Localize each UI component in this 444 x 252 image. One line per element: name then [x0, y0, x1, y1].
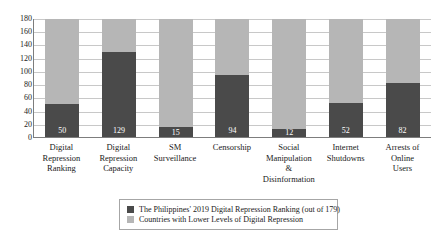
y-tick-label: 20: [24, 121, 32, 129]
bar-segment-philippines-ranking: 82: [386, 83, 420, 137]
bar-column[interactable]: 12: [272, 19, 306, 137]
x-category-label-line: Repression: [91, 153, 145, 164]
x-category-label-line: Ranking: [34, 163, 88, 174]
x-axis-category-labels: DigitalRepressionRankingDigitalRepressio…: [33, 142, 431, 184]
x-category-label-line: Capacity: [91, 163, 145, 174]
bar-column[interactable]: 129: [102, 19, 136, 137]
bar-column[interactable]: 50: [45, 19, 79, 137]
bar-column[interactable]: 82: [386, 19, 420, 137]
bar-segment-philippines-ranking: 129: [102, 52, 136, 137]
bar-value-label: 94: [215, 126, 249, 135]
bar-column[interactable]: 52: [329, 19, 363, 137]
bar-segment-philippines-ranking: 94: [215, 75, 249, 137]
y-tick-label: 80: [24, 81, 32, 89]
x-category-label: DigitalRepressionCapacity: [91, 142, 145, 174]
x-category-label: Censorship: [205, 142, 259, 153]
x-category-label-line: SM: [148, 142, 202, 153]
bar-column[interactable]: 15: [159, 19, 193, 137]
x-category-label: Arrests ofOnlineUsers: [375, 142, 429, 174]
y-tick-label: 120: [20, 55, 32, 63]
bar-segment-philippines-ranking: 15: [159, 127, 193, 137]
x-category-label-line: Arrests of: [375, 142, 429, 153]
bar-segment-lower-repression: [386, 19, 420, 83]
y-axis: 180160140120100806040200: [6, 14, 32, 138]
bar-segment-lower-repression: [102, 19, 136, 52]
legend-item[interactable]: The Philippines' 2019 Digital Repression…: [127, 205, 331, 214]
light-swatch: [127, 216, 134, 223]
x-category-label: SMSurveillance: [148, 142, 202, 163]
y-tick-label: 180: [20, 15, 32, 23]
x-category-label: SocialManipulation&Disinformation: [262, 142, 316, 184]
x-category-label-line: Manipulation: [262, 153, 316, 164]
x-category-label-line: Internet: [319, 142, 373, 153]
x-category-label-line: Digital: [91, 142, 145, 153]
x-category-label-line: Surveillance: [148, 153, 202, 164]
x-category-label-line: Social: [262, 142, 316, 153]
chart-legend: The Philippines' 2019 Digital Repression…: [119, 199, 338, 230]
y-tick-label: 40: [24, 108, 32, 116]
x-category-label-line: &: [262, 163, 316, 174]
bar-segment-philippines-ranking: 52: [329, 103, 363, 137]
dark-swatch: [127, 206, 134, 213]
bar-value-label: 50: [45, 126, 79, 135]
x-category-label: InternetShutdowns: [319, 142, 373, 163]
y-tick-label: 160: [20, 28, 32, 36]
bar-value-label: 82: [386, 126, 420, 135]
y-tick-label: 100: [20, 68, 32, 76]
x-category-label: DigitalRepressionRanking: [34, 142, 88, 174]
legend-item[interactable]: Countries with Lower Levels of Digital R…: [127, 215, 331, 224]
bar-value-label: 12: [272, 128, 306, 137]
x-category-label-line: Disinformation: [262, 174, 316, 185]
y-tick-label: 60: [24, 94, 32, 102]
bar-segment-lower-repression: [45, 19, 79, 104]
x-category-label-line: Online: [375, 153, 429, 164]
bar-value-label: 52: [329, 126, 363, 135]
bar-segment-lower-repression: [159, 19, 193, 127]
x-category-label-line: Repression: [34, 153, 88, 164]
bars-layer: 501291594125282: [34, 19, 431, 137]
legend-item-label: Countries with Lower Levels of Digital R…: [139, 215, 303, 224]
bar-value-label: 129: [102, 126, 136, 135]
stacked-bar-chart: 180160140120100806040200 501291594125282…: [0, 0, 444, 252]
bar-segment-lower-repression: [215, 19, 249, 75]
x-category-label-line: Censorship: [205, 142, 259, 153]
x-category-label-line: Shutdowns: [319, 153, 373, 164]
y-tick-label: 140: [20, 41, 32, 49]
y-tick-label: 0: [28, 134, 32, 142]
bar-segment-philippines-ranking: 12: [272, 129, 306, 137]
plot-area: 501291594125282: [33, 19, 431, 138]
bar-value-label: 15: [159, 128, 193, 137]
bar-column[interactable]: 94: [215, 19, 249, 137]
bar-segment-lower-repression: [329, 19, 363, 103]
x-category-label-line: Users: [375, 163, 429, 174]
plot-wrapper: 180160140120100806040200 501291594125282: [0, 0, 444, 145]
bar-segment-lower-repression: [272, 19, 306, 129]
legend-item-label: The Philippines' 2019 Digital Repression…: [139, 205, 340, 214]
x-category-label-line: Digital: [34, 142, 88, 153]
bar-segment-philippines-ranking: 50: [45, 104, 79, 137]
